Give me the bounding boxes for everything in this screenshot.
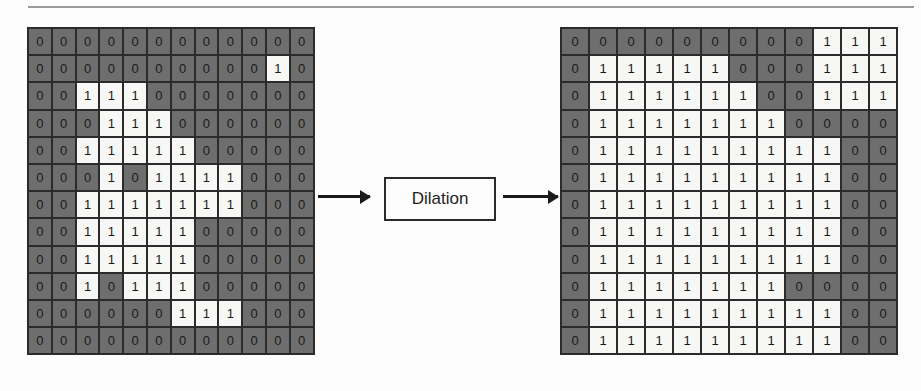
grid-cell: 1 (617, 164, 645, 191)
grid-cell: 1 (617, 191, 645, 218)
grid-cell: 1 (589, 246, 617, 273)
grid-cell: 0 (869, 164, 897, 191)
grid-cell: 1 (171, 191, 195, 218)
grid-cell: 0 (729, 55, 757, 82)
grid-cell: 1 (729, 300, 757, 327)
grid-cell: 0 (785, 28, 813, 55)
grid-cell: 0 (869, 137, 897, 164)
grid-cell: 1 (147, 137, 171, 164)
grid-cell: 1 (589, 191, 617, 218)
grid-cell: 1 (729, 191, 757, 218)
grid-cell: 1 (701, 82, 729, 109)
grid-cell: 0 (28, 191, 52, 218)
arrow-right-icon-input (318, 195, 370, 198)
grid-cell: 1 (757, 191, 785, 218)
grid-cell: 1 (701, 218, 729, 245)
grid-cell: 1 (171, 164, 195, 191)
grid-cell: 0 (757, 82, 785, 109)
grid-cell: 0 (52, 110, 76, 137)
grid-cell: 1 (757, 300, 785, 327)
grid-cell: 0 (76, 110, 100, 137)
grid-cell: 1 (785, 137, 813, 164)
grid-cell: 1 (757, 110, 785, 137)
grid-cell: 1 (266, 55, 290, 82)
grid-cell: 0 (99, 273, 123, 300)
grid-cell: 0 (123, 55, 147, 82)
grid-cell: 1 (813, 82, 841, 109)
grid-cell: 1 (841, 55, 869, 82)
input-binary-grid: 0000000000000000000000100011100000000001… (27, 27, 315, 355)
grid-cell: 1 (813, 55, 841, 82)
grid-cell: 1 (757, 218, 785, 245)
grid-cell: 1 (99, 218, 123, 245)
grid-cell: 1 (701, 55, 729, 82)
grid-cell: 0 (99, 300, 123, 327)
grid-cell: 1 (813, 300, 841, 327)
grid-cell: 0 (28, 164, 52, 191)
grid-cell: 0 (561, 55, 589, 82)
grid-cell: 0 (673, 28, 701, 55)
grid-cell: 0 (785, 110, 813, 137)
grid-cell: 0 (76, 300, 100, 327)
grid-cell: 0 (290, 82, 314, 109)
grid-cell: 0 (123, 300, 147, 327)
grid-cell: 0 (841, 246, 869, 273)
grid-cell: 0 (195, 82, 219, 109)
grid-cell: 1 (617, 327, 645, 354)
grid-cell: 1 (123, 110, 147, 137)
grid-cell: 1 (673, 218, 701, 245)
grid-cell: 1 (99, 246, 123, 273)
grid-cell: 1 (645, 246, 673, 273)
grid-cell: 1 (645, 300, 673, 327)
grid-cell: 0 (195, 218, 219, 245)
grid-cell: 0 (785, 273, 813, 300)
grid-cell: 0 (645, 28, 673, 55)
grid-cell: 1 (869, 82, 897, 109)
grid-cell: 1 (673, 246, 701, 273)
grid-cell: 0 (195, 246, 219, 273)
grid-cell: 0 (52, 191, 76, 218)
grid-cell: 0 (52, 300, 76, 327)
grid-cell: 1 (785, 300, 813, 327)
grid-cell: 1 (757, 327, 785, 354)
grid-cell: 1 (99, 82, 123, 109)
grid-cell: 0 (242, 137, 266, 164)
grid-cell: 0 (195, 110, 219, 137)
grid-cell: 1 (757, 137, 785, 164)
grid-cell: 0 (218, 110, 242, 137)
grid-cell: 1 (841, 82, 869, 109)
grid-cell: 0 (561, 246, 589, 273)
grid-cell: 0 (242, 28, 266, 55)
grid-cell: 0 (52, 246, 76, 273)
grid-cell: 0 (28, 327, 52, 354)
grid-cell: 0 (28, 82, 52, 109)
dilation-pipeline: Dilation (318, 177, 558, 217)
grid-cell: 1 (729, 273, 757, 300)
grid-cell: 1 (729, 218, 757, 245)
grid-cell: 0 (242, 164, 266, 191)
grid-cell: 1 (673, 55, 701, 82)
grid-cell: 1 (76, 191, 100, 218)
grid-cell: 0 (123, 28, 147, 55)
grid-cell: 0 (242, 300, 266, 327)
grid-cell: 1 (76, 273, 100, 300)
grid-cell: 1 (99, 110, 123, 137)
grid-cell: 1 (729, 137, 757, 164)
grid-cell: 1 (785, 327, 813, 354)
grid-cell: 0 (290, 137, 314, 164)
grid-cell: 1 (218, 191, 242, 218)
grid-cell: 1 (645, 164, 673, 191)
arrow-right-icon-output (503, 195, 558, 198)
grid-cell: 0 (76, 55, 100, 82)
grid-cell: 0 (147, 300, 171, 327)
grid-cell: 0 (52, 218, 76, 245)
grid-cell: 0 (147, 327, 171, 354)
grid-cell: 1 (171, 218, 195, 245)
grid-cell: 0 (813, 273, 841, 300)
grid-cell: 0 (52, 28, 76, 55)
grid-cell: 0 (28, 300, 52, 327)
grid-cell: 1 (589, 300, 617, 327)
output-binary-grid: 0000000001110111110001110111111001110111… (560, 27, 898, 355)
grid-cell: 1 (617, 110, 645, 137)
grid-cell: 1 (218, 164, 242, 191)
